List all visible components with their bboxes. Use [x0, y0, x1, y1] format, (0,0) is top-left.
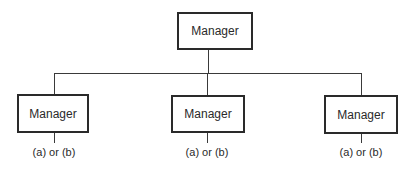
child-1-connector-line: [54, 73, 55, 95]
child-3-note: (a) or (b): [321, 146, 401, 158]
root-manager-box: Manager: [177, 12, 253, 50]
child-1-note: (a) or (b): [14, 146, 94, 158]
child-1-stub-line: [54, 133, 55, 143]
child-3-manager-box: Manager: [324, 95, 398, 134]
child-2-stub-line: [207, 133, 208, 143]
root-manager-label: Manager: [191, 24, 238, 38]
root-connector-line: [208, 50, 209, 74]
child-3-connector-line: [361, 73, 362, 95]
child-1-manager-label: Manager: [29, 107, 76, 121]
horizontal-connector-line: [54, 73, 362, 74]
child-3-stub-line: [361, 134, 362, 143]
child-2-manager-box: Manager: [171, 95, 245, 133]
child-2-connector-line: [207, 73, 208, 95]
child-2-manager-label: Manager: [184, 107, 231, 121]
child-1-manager-box: Manager: [17, 94, 89, 133]
child-3-manager-label: Manager: [337, 108, 384, 122]
child-2-note: (a) or (b): [167, 146, 247, 158]
